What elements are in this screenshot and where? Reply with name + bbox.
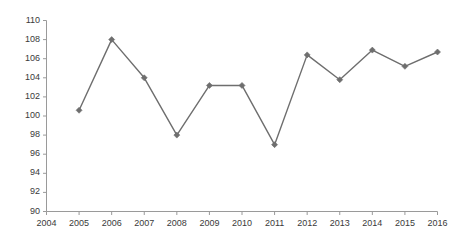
y-axis-tick-label: 104 <box>8 72 40 82</box>
y-axis-tick-label: 100 <box>8 110 40 120</box>
data-point-marker <box>76 107 82 113</box>
y-axis-tick-label: 94 <box>8 167 40 177</box>
data-point-marker <box>435 49 441 55</box>
y-axis-tick-label: 110 <box>8 15 40 25</box>
data-point-marker <box>272 142 278 148</box>
y-axis-tick-label: 108 <box>8 34 40 44</box>
y-axis-tick-label: 90 <box>8 206 40 216</box>
y-axis-tick-label: 102 <box>8 91 40 101</box>
x-axis-tick-label: 2016 <box>418 218 452 228</box>
y-axis-tick-label: 98 <box>8 129 40 139</box>
data-point-marker <box>239 82 245 88</box>
series-line <box>79 40 437 145</box>
y-axis-tick-label: 106 <box>8 53 40 63</box>
y-axis-tick-label: 92 <box>8 186 40 196</box>
y-axis-tick-label: 96 <box>8 148 40 158</box>
data-point-marker <box>402 63 408 69</box>
